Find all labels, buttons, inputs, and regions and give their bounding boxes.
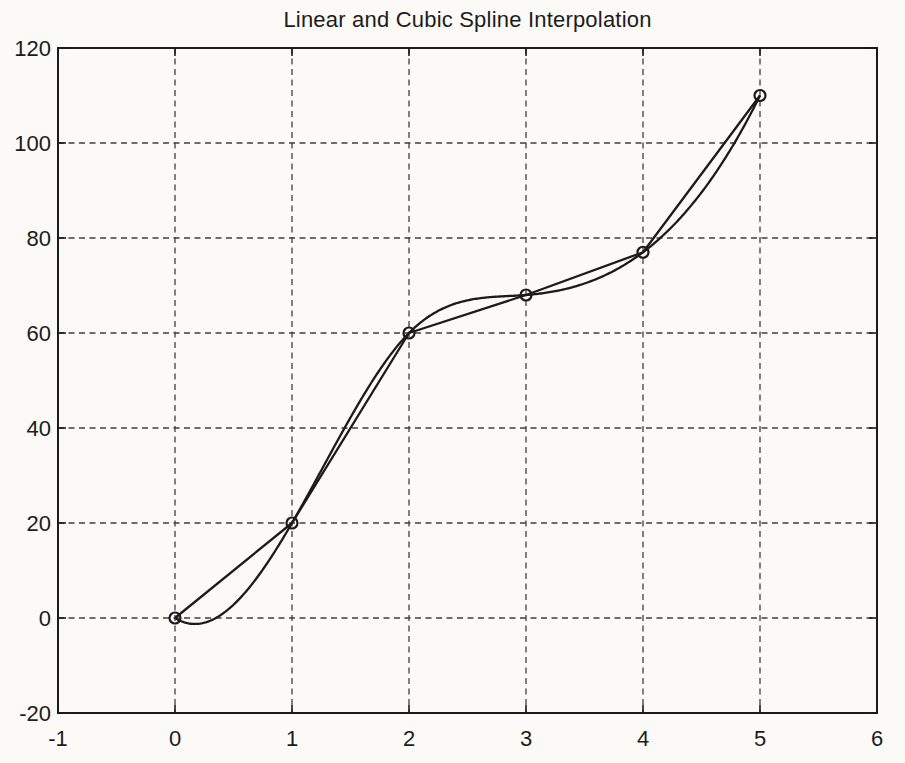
x-tick-label: 0: [169, 726, 181, 751]
spline-series-line: [175, 96, 760, 624]
y-tick-label: 40: [27, 416, 51, 441]
y-tick-label: 80: [27, 226, 51, 251]
x-tick-label: 4: [637, 726, 649, 751]
linear-series-line: [175, 96, 760, 619]
interpolation-chart: -10123456-20020406080100120: [0, 0, 905, 763]
y-tick-label: 0: [39, 606, 51, 631]
y-tick-label: 100: [14, 131, 51, 156]
x-tick-label: 6: [871, 726, 883, 751]
y-tick-label: 60: [27, 321, 51, 346]
x-tick-label: 2: [403, 726, 415, 751]
y-tick-label: 20: [27, 511, 51, 536]
figure-canvas: Linear and Cubic Spline Interpolation -1…: [0, 0, 905, 763]
x-tick-label: 5: [754, 726, 766, 751]
y-tick-label: -20: [19, 701, 51, 726]
y-tick-label: 120: [14, 36, 51, 61]
x-tick-label: 3: [520, 726, 532, 751]
x-tick-label: -1: [48, 726, 68, 751]
x-tick-label: 1: [286, 726, 298, 751]
